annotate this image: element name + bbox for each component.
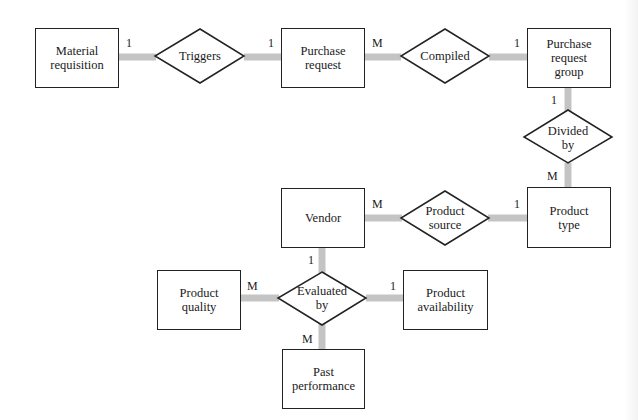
entity-purchase-request-group[interactable]: Purchase request group bbox=[527, 28, 611, 88]
cardinality-quality-evaluated: M bbox=[247, 280, 258, 292]
entity-purchase-request[interactable]: Purchase request bbox=[281, 28, 365, 88]
entity-label: Product type bbox=[541, 204, 597, 232]
cardinality-compiled-group: 1 bbox=[514, 37, 520, 49]
cardinality-source-type: 1 bbox=[514, 198, 520, 210]
entity-label: Purchase request bbox=[285, 44, 361, 72]
entity-label: Purchase request group bbox=[539, 37, 599, 79]
cardinality-purchase-compiled: M bbox=[372, 37, 383, 49]
relationship-triggers[interactable]: Triggers bbox=[160, 40, 240, 72]
relationship-divided-by[interactable]: Divided by bbox=[540, 122, 596, 154]
relationship-label: Divided by bbox=[544, 124, 592, 152]
relationship-compiled[interactable]: Compiled bbox=[405, 40, 485, 72]
relationship-label: Product source bbox=[420, 204, 470, 232]
relationship-label: Evaluated by bbox=[291, 284, 353, 312]
cardinality-vendor-source: M bbox=[372, 198, 383, 210]
relationship-label: Triggers bbox=[179, 49, 221, 63]
entity-product-quality[interactable]: Product quality bbox=[157, 270, 241, 330]
entity-product-availability[interactable]: Product availability bbox=[403, 270, 488, 330]
entity-label: Product quality bbox=[171, 286, 227, 314]
relationship-evaluated-by[interactable]: Evaluated by bbox=[290, 282, 354, 314]
entity-material-requisition[interactable]: Material requisition bbox=[35, 28, 119, 88]
cardinality-evaluated-availability: 1 bbox=[390, 280, 396, 292]
relationship-label: Compiled bbox=[420, 49, 469, 63]
cardinality-triggers-purchase: 1 bbox=[268, 37, 274, 49]
entity-vendor[interactable]: Vendor bbox=[281, 188, 365, 248]
cardinality-divided-type: M bbox=[547, 170, 558, 182]
entity-label: Product availability bbox=[406, 286, 486, 314]
entity-label: Vendor bbox=[305, 211, 341, 225]
entity-past-performance[interactable]: Past performance bbox=[282, 349, 365, 409]
cardinality-evaluated-performance: M bbox=[302, 333, 313, 345]
cardinality-material-triggers: 1 bbox=[126, 37, 132, 49]
entity-label: Past performance bbox=[284, 365, 364, 393]
cardinality-group-divided: 1 bbox=[551, 94, 557, 106]
entity-label: Material requisition bbox=[39, 44, 115, 72]
relationship-product-source[interactable]: Product source bbox=[415, 202, 475, 234]
cardinality-vendor-evaluated: 1 bbox=[308, 254, 314, 266]
entity-product-type[interactable]: Product type bbox=[527, 187, 611, 248]
